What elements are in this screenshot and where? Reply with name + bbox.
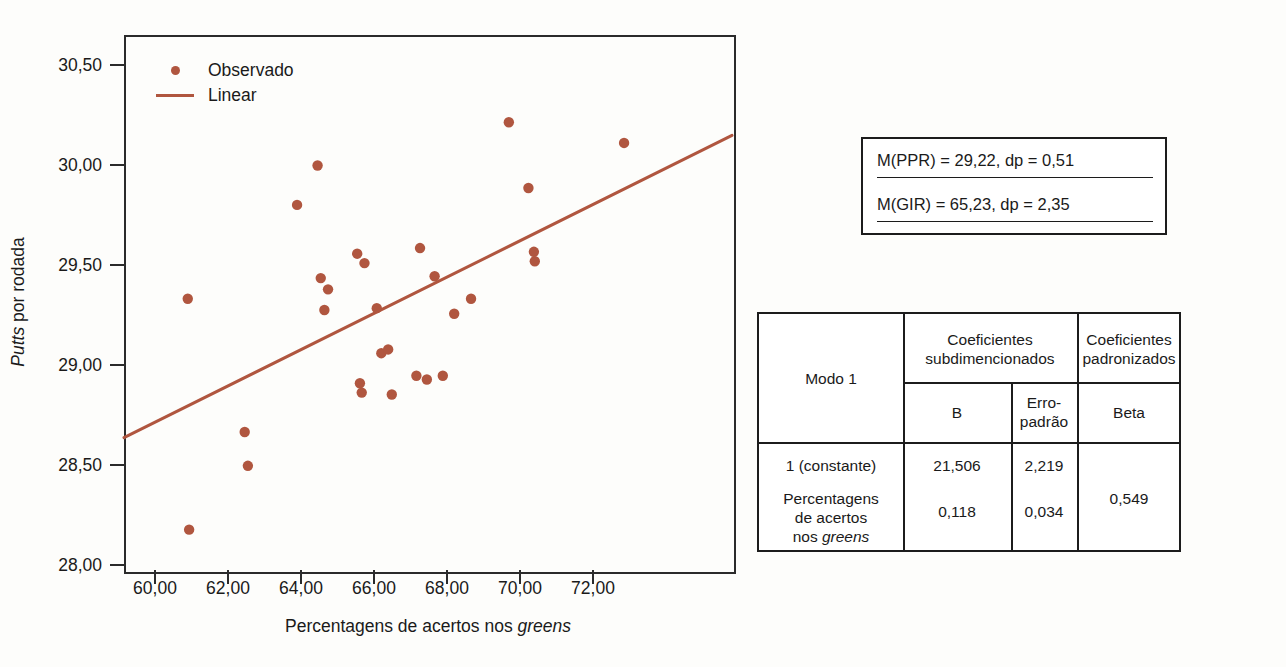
legend-item-observado: Observado: [150, 58, 294, 83]
data-point: [449, 309, 459, 319]
data-point: [530, 256, 540, 266]
table-row-label-percentagens: Percentagens de acertos nos greens: [759, 484, 903, 550]
legend-dot-icon: [150, 66, 200, 75]
data-point: [466, 294, 476, 304]
data-point: [319, 305, 329, 315]
data-point: [422, 374, 432, 384]
data-point: [529, 247, 539, 257]
data-point: [387, 389, 397, 399]
data-points-group: [183, 117, 630, 535]
legend-label: Linear: [208, 83, 257, 108]
data-point: [372, 303, 382, 313]
figure-page: Putts por rodada 30,50 30,00 29,50 29,00…: [0, 0, 1286, 667]
data-point: [312, 160, 322, 170]
data-point: [438, 371, 448, 381]
data-point: [355, 378, 365, 388]
table-cell-erro-constante: 2,219: [1011, 446, 1077, 484]
data-point: [357, 387, 367, 397]
row-label-italic: greens: [822, 528, 869, 545]
table-cell-subheader-erro: Erro-padrão: [1011, 382, 1077, 442]
group-header-2-line1: Coeficientes: [1086, 330, 1171, 349]
y-tick-marks: [110, 65, 124, 565]
table-cell-group-header-2: Coeficientes padronizados: [1077, 318, 1181, 380]
data-point: [239, 427, 249, 437]
stats-line-ppr: M(PPR) = 29,22, dp = 0,51: [877, 151, 1153, 178]
table-cell-erro-percentagens: 0,034: [1011, 490, 1077, 532]
stats-box: M(PPR) = 29,22, dp = 0,51 M(GIR) = 65,23…: [861, 137, 1167, 235]
data-point: [411, 371, 421, 381]
table-cell-subheader-b: B: [903, 382, 1011, 442]
legend-line-icon: [150, 94, 200, 97]
coefficients-table: Modo 1 Coeficientes subdimencionados Coe…: [757, 312, 1181, 552]
row-label-line3: nos greens: [793, 527, 870, 546]
table-cell-b-percentagens: 0,118: [903, 490, 1011, 532]
group-header-1-line2: subdimencionados: [925, 349, 1054, 368]
table-cell-model-label: Modo 1: [759, 314, 903, 442]
data-point: [323, 284, 333, 294]
table-cell-beta-merged: 0,549: [1077, 446, 1181, 550]
table-row-label-constante: 1 (constante): [759, 446, 903, 484]
table-cell-group-header-1: Coeficientes subdimencionados: [903, 318, 1077, 380]
table-cell-subheader-beta: Beta: [1077, 382, 1181, 442]
plot-canvas: [0, 0, 760, 667]
group-header-1-line1: Coeficientes: [947, 330, 1032, 349]
data-point: [352, 248, 362, 258]
data-point: [359, 258, 369, 268]
data-point: [243, 461, 253, 471]
scatter-chart: Putts por rodada 30,50 30,00 29,50 29,00…: [0, 0, 760, 667]
row-label-line2: de acertos: [795, 508, 867, 527]
data-point: [183, 294, 193, 304]
regression-line: [124, 135, 732, 437]
data-point: [523, 183, 533, 193]
data-point: [415, 243, 425, 253]
row-label-line1: Percentagens: [783, 489, 879, 508]
table-cell-b-constante: 21,506: [903, 446, 1011, 484]
chart-legend: Observado Linear: [150, 58, 294, 108]
x-tick-marks: [155, 570, 593, 584]
data-point: [504, 117, 514, 127]
data-point: [184, 524, 194, 534]
data-point: [619, 138, 629, 148]
stats-line-gir: M(GIR) = 65,23, dp = 2,35: [877, 195, 1153, 222]
data-point: [429, 271, 439, 281]
data-point: [316, 273, 326, 283]
group-header-2-line2: padronizados: [1082, 349, 1175, 368]
table-hrule: [759, 442, 1179, 444]
data-point: [292, 200, 302, 210]
legend-label: Observado: [208, 58, 294, 83]
legend-item-linear: Linear: [150, 83, 294, 108]
data-point: [383, 344, 393, 354]
